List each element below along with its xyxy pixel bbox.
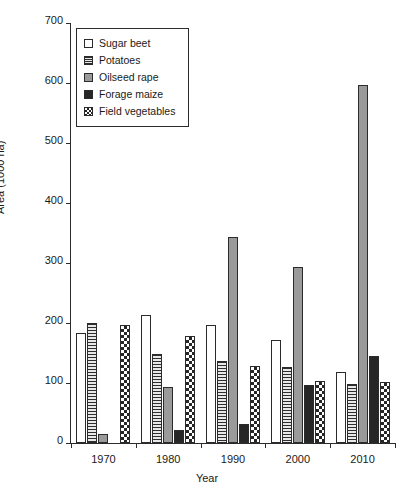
bar-field-vegetables-1980[interactable] <box>185 336 195 443</box>
y-axis-title: Area (1000 ha) <box>0 94 6 214</box>
black-square-icon <box>84 90 93 99</box>
bar-forage-maize-2000[interactable] <box>304 385 314 443</box>
legend-item-label: Potatoes <box>99 55 140 66</box>
legend-item-field-vegetables[interactable]: Field vegetables <box>84 103 181 120</box>
bar-group-2010 <box>336 23 390 443</box>
y-tick-label: 100 <box>45 375 63 386</box>
bar-chart-figure: Area (1000 ha) 0100200300400500600700 19… <box>0 0 414 502</box>
legend-item-forage-maize[interactable]: Forage maize <box>84 86 181 103</box>
bar-field-vegetables-1990[interactable] <box>250 366 260 443</box>
legend-item-potatoes[interactable]: Potatoes <box>84 52 181 69</box>
bar-sugar-beet-1970[interactable] <box>76 333 86 443</box>
bar-oilseed-rape-2000[interactable] <box>293 267 303 443</box>
bar-sugar-beet-1980[interactable] <box>141 315 151 443</box>
legend-item-label: Forage maize <box>99 89 163 100</box>
checkered-square-icon <box>84 107 93 116</box>
bar-field-vegetables-2010[interactable] <box>380 382 390 443</box>
x-axis-title: Year <box>0 472 414 484</box>
x-tick-mark-1990 <box>201 443 202 448</box>
x-tick-label-2000: 2000 <box>286 453 310 465</box>
y-tick-mark <box>66 23 71 24</box>
y-tick-mark <box>66 263 71 264</box>
y-tick-mark <box>66 323 71 324</box>
y-tick-mark <box>66 143 71 144</box>
x-tick-mark-1980 <box>136 443 137 448</box>
y-tick-mark <box>66 203 71 204</box>
white-square-icon <box>84 39 93 48</box>
legend-item-oilseed-rape[interactable]: Oilseed rape <box>84 69 181 86</box>
bar-oilseed-rape-1980[interactable] <box>163 387 173 443</box>
x-tick-mark-2000 <box>265 443 266 448</box>
y-tick-label: 600 <box>45 75 63 86</box>
bar-field-vegetables-1970[interactable] <box>120 325 130 443</box>
x-tick-mark-2010 <box>330 443 331 448</box>
x-tick-label-1970: 1970 <box>91 453 115 465</box>
bar-sugar-beet-1990[interactable] <box>206 325 216 443</box>
x-tick-mark-end <box>395 443 396 448</box>
y-tick-label: 400 <box>45 195 63 206</box>
y-tick-label: 0 <box>57 435 63 446</box>
bar-potatoes-2000[interactable] <box>282 367 292 443</box>
y-tick-label: 700 <box>45 15 63 26</box>
bar-forage-maize-1990[interactable] <box>239 424 249 443</box>
bar-potatoes-1970[interactable] <box>87 323 97 443</box>
bar-group-2000 <box>271 23 325 443</box>
chart-legend: Sugar beetPotatoesOilseed rapeForage mai… <box>76 28 189 127</box>
hatched-square-icon <box>84 56 93 65</box>
bar-potatoes-1980[interactable] <box>152 354 162 443</box>
y-tick-label: 300 <box>45 255 63 266</box>
y-tick-label: 500 <box>45 135 63 146</box>
y-tick-mark <box>66 83 71 84</box>
x-tick-label-1980: 1980 <box>156 453 180 465</box>
bar-potatoes-2010[interactable] <box>347 384 357 443</box>
y-tick-label: 200 <box>45 315 63 326</box>
bar-sugar-beet-2010[interactable] <box>336 372 346 443</box>
x-tick-mark-1970 <box>71 443 72 448</box>
x-tick-label-1990: 1990 <box>221 453 245 465</box>
bar-field-vegetables-2000[interactable] <box>315 381 325 443</box>
x-axis-line <box>70 443 395 444</box>
bar-oilseed-rape-1970[interactable] <box>98 434 108 443</box>
legend-item-label: Field vegetables <box>99 106 175 117</box>
legend-item-sugar-beet[interactable]: Sugar beet <box>84 35 181 52</box>
legend-item-label: Oilseed rape <box>99 72 159 83</box>
gray-square-icon <box>84 73 93 82</box>
bar-group-1990 <box>206 23 260 443</box>
legend-item-label: Sugar beet <box>99 38 150 49</box>
bar-sugar-beet-2000[interactable] <box>271 340 281 443</box>
bar-forage-maize-2010[interactable] <box>369 356 379 443</box>
bar-forage-maize-1980[interactable] <box>174 430 184 443</box>
x-tick-label-2010: 2010 <box>350 453 374 465</box>
bar-oilseed-rape-2010[interactable] <box>358 85 368 443</box>
y-tick-mark <box>66 383 71 384</box>
bar-potatoes-1990[interactable] <box>217 361 227 443</box>
bar-oilseed-rape-1990[interactable] <box>228 237 238 443</box>
